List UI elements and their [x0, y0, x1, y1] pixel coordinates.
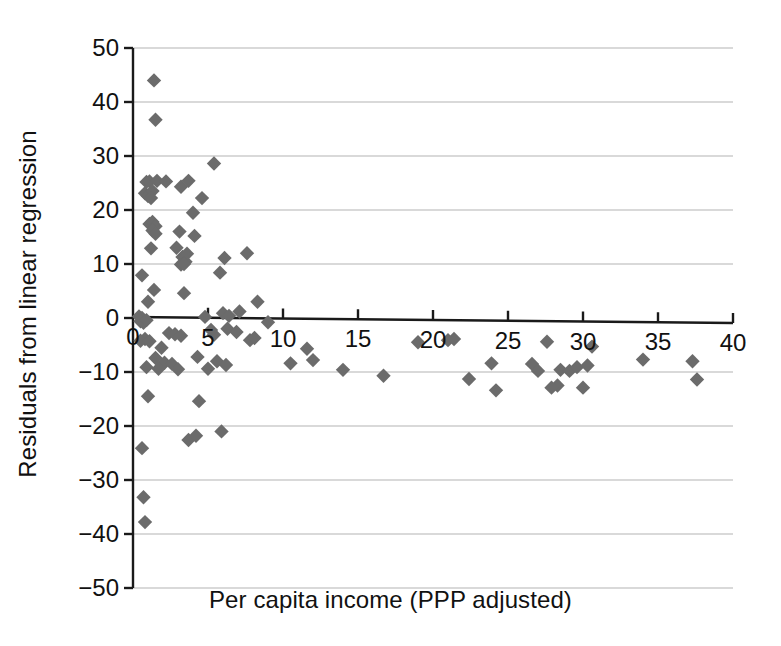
data-point-marker [484, 356, 498, 370]
x-tick-label: 5 [178, 324, 238, 352]
x-tick-label: 20 [403, 326, 463, 354]
x-tick-label: 25 [478, 327, 538, 355]
x-tick-label: 35 [628, 328, 688, 356]
data-point-marker [690, 372, 704, 386]
data-point-marker [306, 353, 320, 367]
data-point-marker [195, 191, 209, 205]
y-tick-label: 20 [55, 196, 119, 224]
data-point-marker [576, 380, 590, 394]
data-point-marker [213, 265, 227, 279]
data-point-marker [207, 156, 221, 170]
data-point-marker [135, 441, 149, 455]
x-tick-label: 15 [328, 325, 388, 353]
data-point-marker [177, 286, 191, 300]
data-point-marker [147, 73, 161, 87]
y-tick-label: 30 [55, 142, 119, 170]
data-point-marker [186, 206, 200, 220]
data-point-marker [159, 174, 173, 188]
data-point-marker [198, 310, 212, 324]
data-point-marker [217, 251, 231, 265]
data-point-marker [580, 358, 594, 372]
data-point-marker [136, 490, 150, 504]
data-point-marker [147, 283, 161, 297]
data-point-marker [144, 241, 158, 255]
data-point-marker [138, 515, 152, 529]
data-point-marker [187, 229, 201, 243]
data-point-marker [190, 350, 204, 364]
x-tick-label: 40 [703, 329, 763, 357]
x-tick-label: 30 [553, 328, 613, 356]
y-tick-label: −50 [55, 574, 119, 602]
data-point-marker [240, 246, 254, 260]
data-point-marker [283, 356, 297, 370]
x-tick-label: 0 [103, 323, 163, 351]
data-point-marker [135, 268, 149, 282]
data-point-marker [172, 224, 186, 238]
y-tick-label: 40 [55, 88, 119, 116]
y-tick-label: −10 [55, 358, 119, 386]
data-point-marker [148, 113, 162, 127]
y-tick-label: −20 [55, 412, 119, 440]
data-point-marker [336, 363, 350, 377]
data-point-marker [489, 383, 503, 397]
data-point-marker [462, 372, 476, 386]
data-point-marker [192, 394, 206, 408]
data-point-marker [250, 295, 264, 309]
y-tick-label: 10 [55, 250, 119, 278]
y-tick-label: −40 [55, 520, 119, 548]
data-point-marker [141, 389, 155, 403]
y-tick-label: 50 [55, 34, 119, 62]
x-tick-label: 10 [253, 325, 313, 353]
data-point-marker [376, 369, 390, 383]
y-tick-label: −30 [55, 466, 119, 494]
scatter-chart: Residuals from linear regression Per cap… [0, 0, 781, 646]
data-point-marker [141, 295, 155, 309]
